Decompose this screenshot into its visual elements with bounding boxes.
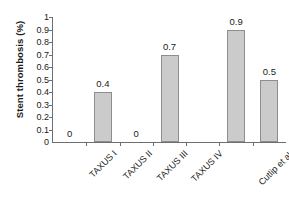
bar bbox=[260, 80, 278, 143]
y-tick-label: 0 bbox=[44, 138, 53, 147]
y-tick-mark bbox=[49, 130, 53, 131]
plot-area: 10.90.80.70.60.50.40.30.20.10 00.400.70.… bbox=[52, 17, 286, 143]
x-tick-mark bbox=[153, 142, 154, 146]
x-tick-mark bbox=[219, 142, 220, 146]
y-tick-mark bbox=[49, 55, 53, 56]
y-tick-mark bbox=[49, 17, 53, 18]
bar-value-label: 0.7 bbox=[163, 42, 176, 52]
bar-value-label: 0 bbox=[134, 129, 139, 139]
x-axis-label: TAXUS II bbox=[122, 149, 154, 181]
y-tick-mark bbox=[49, 80, 53, 81]
y-tick-mark bbox=[49, 42, 53, 43]
x-axis-label: Cutlip et al. bbox=[257, 149, 289, 187]
bar-value-label: 0.4 bbox=[96, 79, 109, 89]
y-tick-mark bbox=[49, 92, 53, 93]
bar-chart-figure: Stent thrombosis (%) 10.90.80.70.60.50.4… bbox=[0, 0, 289, 204]
y-tick-mark bbox=[49, 105, 53, 106]
x-tick-mark bbox=[253, 142, 254, 146]
y-tick-mark bbox=[49, 67, 53, 68]
x-tick-mark bbox=[186, 142, 187, 146]
bar bbox=[94, 92, 112, 142]
bar bbox=[227, 30, 245, 143]
y-tick-mark bbox=[49, 30, 53, 31]
x-tick-mark bbox=[120, 142, 121, 146]
bar-value-label: 0.5 bbox=[263, 67, 276, 77]
bar bbox=[161, 55, 179, 143]
x-axis-label: TAXUS III bbox=[156, 149, 190, 183]
bar-value-label: 0 bbox=[67, 129, 72, 139]
y-axis-title: Stent thrombosis (%) bbox=[14, 5, 25, 135]
x-tick-mark bbox=[86, 142, 87, 146]
x-axis-label: TAXUS I bbox=[88, 149, 119, 180]
x-axis-label: TAXUS IV bbox=[189, 149, 224, 184]
bar-value-label: 0.9 bbox=[229, 17, 242, 27]
y-tick-mark bbox=[49, 117, 53, 118]
